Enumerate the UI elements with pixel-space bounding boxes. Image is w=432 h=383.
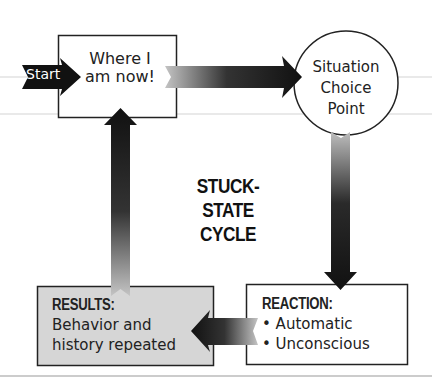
reaction-item-automatic: • Automatic — [262, 314, 407, 334]
situation-node-line3: Point — [296, 99, 396, 120]
arrow-right-icon — [165, 56, 302, 98]
title-line2: CYCLE — [176, 222, 279, 246]
situation-node-line1: Situation — [296, 57, 396, 78]
arrow-down-icon — [324, 132, 357, 290]
results-heading: RESULTS: — [52, 295, 183, 315]
results-node-text: RESULTS: Behavior and history repeated — [52, 295, 212, 355]
start-label: Start — [26, 66, 64, 82]
current-node-line2: am now! — [68, 68, 172, 86]
diagram-title: STUCK- STATE CYCLE — [168, 174, 288, 246]
current-node-line1: Where I — [68, 50, 172, 68]
current-node-text: Where I am now! — [68, 50, 172, 87]
arrow-up-icon — [104, 108, 137, 296]
results-line1: Behavior and — [52, 315, 212, 335]
situation-node-line2: Choice — [296, 78, 396, 99]
title-line1: STUCK- STATE — [176, 174, 279, 222]
reaction-heading: REACTION: — [262, 294, 381, 314]
results-line2: history repeated — [52, 335, 212, 355]
reaction-item-unconscious: • Unconscious — [262, 334, 407, 354]
situation-node-text: Situation Choice Point — [296, 57, 396, 120]
reaction-node-text: REACTION: • Automatic • Unconscious — [262, 294, 407, 354]
